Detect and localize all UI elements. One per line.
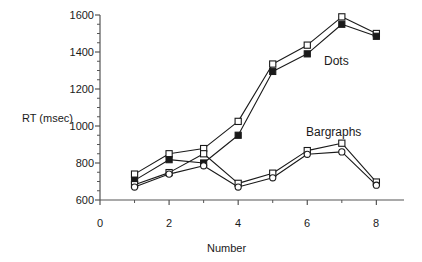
data-point xyxy=(166,157,172,163)
data-point xyxy=(339,21,345,27)
data-point xyxy=(166,151,172,157)
data-point xyxy=(131,184,137,190)
data-point xyxy=(270,175,276,181)
data-point xyxy=(166,171,172,177)
data-point xyxy=(131,171,137,177)
data-point xyxy=(339,149,345,155)
data-point xyxy=(270,61,276,67)
data-point xyxy=(373,33,379,39)
data-point xyxy=(201,163,207,169)
chart-figure: RT (msec) Number 1600 1400 1200 1000 800… xyxy=(0,0,422,262)
data-point xyxy=(235,132,241,138)
data-point xyxy=(235,184,241,190)
data-point xyxy=(304,151,310,157)
plot-area xyxy=(0,0,422,262)
data-point xyxy=(201,151,207,157)
data-point xyxy=(339,140,345,146)
data-point xyxy=(339,14,345,20)
data-point xyxy=(235,118,241,124)
data-point xyxy=(304,51,310,57)
data-point xyxy=(304,42,310,48)
data-point xyxy=(270,68,276,74)
data-point xyxy=(373,182,379,188)
